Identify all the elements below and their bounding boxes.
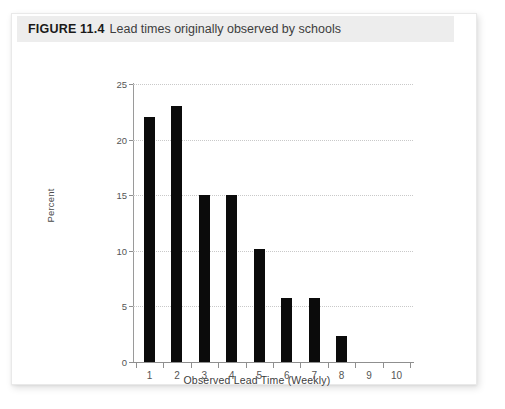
x-tick-mark <box>218 362 219 368</box>
x-tick-label: 10 <box>391 370 402 381</box>
x-tick-mark <box>383 362 384 368</box>
x-tick-mark <box>273 362 274 368</box>
y-tick-mark <box>129 362 133 363</box>
x-tick-mark <box>163 362 164 368</box>
y-tick-mark <box>129 140 133 141</box>
x-tick-label: 2 <box>174 370 180 381</box>
x-tick-mark <box>246 362 247 368</box>
x-tick-mark <box>410 362 411 368</box>
x-tick-mark <box>300 362 301 368</box>
x-tick-label: 7 <box>311 370 317 381</box>
y-tick-mark <box>129 84 133 85</box>
y-axis-title: Percent <box>45 151 56 261</box>
bar <box>254 249 265 362</box>
plot-region: 051015202512345678910 <box>133 84 413 362</box>
bar <box>144 117 155 362</box>
gridline <box>133 84 413 85</box>
y-tick-label: 25 <box>116 79 127 90</box>
bar <box>309 298 320 362</box>
y-tick-label: 0 <box>122 357 127 368</box>
bar <box>281 298 292 362</box>
figure-caption-band: FIGURE 11.4 Lead times originally observ… <box>17 16 454 42</box>
y-tick-label: 5 <box>122 301 127 312</box>
y-tick-mark <box>129 195 133 196</box>
x-tick-label: 5 <box>256 370 262 381</box>
x-tick-mark <box>355 362 356 368</box>
figure-caption-text: Lead times originally observed by school… <box>110 22 341 36</box>
figure-card: Percent Observed Lead Time (Weekly) 0510… <box>11 13 477 385</box>
x-tick-mark <box>136 362 137 368</box>
x-tick-label: 6 <box>284 370 290 381</box>
figure-number: FIGURE 11.4 <box>28 22 105 36</box>
y-tick-mark <box>129 251 133 252</box>
x-tick-label: 1 <box>147 370 153 381</box>
bar <box>226 195 237 362</box>
chart-area: Percent Observed Lead Time (Weekly) 0510… <box>12 14 478 386</box>
bar <box>171 106 182 362</box>
y-tick-mark <box>129 306 133 307</box>
y-tick-label: 15 <box>116 190 127 201</box>
x-tick-label: 3 <box>202 370 208 381</box>
bar <box>199 195 210 362</box>
y-tick-label: 10 <box>116 245 127 256</box>
x-tick-label: 8 <box>339 370 345 381</box>
x-tick-mark <box>191 362 192 368</box>
x-tick-mark <box>328 362 329 368</box>
y-tick-label: 20 <box>116 134 127 145</box>
bar <box>336 336 347 362</box>
x-tick-label: 9 <box>366 370 372 381</box>
x-tick-label: 4 <box>229 370 235 381</box>
